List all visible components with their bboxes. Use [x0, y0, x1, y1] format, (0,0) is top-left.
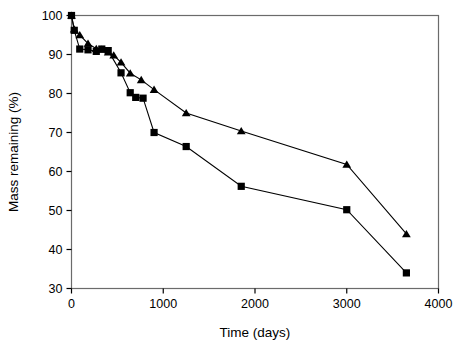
data-point-marker — [343, 206, 350, 213]
data-point-marker — [342, 160, 351, 167]
mass-remaining-vs-time-chart: 3040506070809010001000200030004000Time (… — [0, 0, 458, 342]
x-axis-title: Time (days) — [220, 325, 291, 340]
x-tick-label: 1000 — [149, 297, 177, 311]
x-tick-label: 4000 — [425, 297, 453, 311]
data-point-marker — [68, 12, 75, 19]
chart-container: 3040506070809010001000200030004000Time (… — [0, 0, 458, 342]
y-axis: 30405060708090100 — [42, 9, 72, 296]
y-tick-label: 50 — [49, 204, 63, 218]
x-tick-label: 0 — [68, 297, 75, 311]
y-axis-title: Mass remaining (%) — [6, 92, 21, 212]
data-point-marker — [403, 269, 410, 276]
data-point-marker — [98, 45, 105, 52]
data-point-marker — [137, 76, 146, 83]
y-tick-label: 40 — [49, 243, 63, 257]
y-tick-label: 70 — [49, 126, 63, 140]
data-point-marker — [150, 129, 157, 136]
data-point-marker — [84, 46, 91, 53]
x-tick-label: 2000 — [241, 297, 269, 311]
y-tick-label: 30 — [49, 282, 63, 296]
data-point-marker — [132, 94, 139, 101]
y-tick-label: 90 — [49, 48, 63, 62]
data-point-marker — [237, 127, 246, 134]
data-point-marker — [76, 45, 83, 52]
y-tick-label: 80 — [49, 87, 63, 101]
series-square-series — [68, 12, 410, 277]
data-point-marker — [238, 183, 245, 190]
plot-frame — [72, 16, 439, 289]
series-line — [72, 16, 407, 234]
data-point-marker — [71, 27, 78, 34]
data-point-marker — [117, 69, 124, 76]
data-point-marker — [139, 95, 146, 102]
data-point-marker — [105, 47, 112, 54]
series-line — [72, 16, 407, 273]
series-triangle-series — [67, 12, 411, 238]
data-point-marker — [183, 143, 190, 150]
y-tick-label: 100 — [42, 9, 63, 23]
x-tick-label: 3000 — [333, 297, 361, 311]
y-tick-label: 60 — [49, 165, 63, 179]
x-axis: 01000200030004000 — [68, 289, 452, 311]
